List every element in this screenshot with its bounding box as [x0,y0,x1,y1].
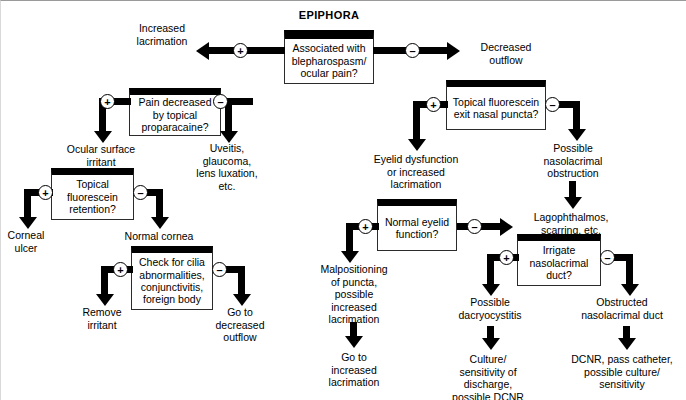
connector-retention-minus-v [156,189,163,219]
label-eyelid-dysfunction: Eyelid dysfunction or increased lacrimat… [356,153,476,191]
arrowhead-dacryocystitis [482,338,500,350]
label-malpositioning: Malpositioning of puncta, possible incre… [314,263,394,326]
sign-eyelid-plus: + [358,219,373,234]
box-root-question: Associated with blepharospasm/ ocular pa… [284,30,374,84]
label-decreased-outflow: Decreased outflow [463,41,549,66]
sign-irrigate-minus: – [600,250,615,265]
label-possible-nasolacrimal-obstruction: Possible nasolacrimal obstruction [528,142,618,180]
sign-text: – [137,186,143,198]
sign-retention-plus: + [38,185,53,200]
sign-root-plus: + [233,43,248,58]
sign-text: + [104,95,110,107]
label-go-to-increased-lacrimation: Go to increased lacrimation [314,351,394,389]
label-lagophthalmos: Lagophthalmos, scarring, etc. [511,211,631,236]
label-uveitis: Uveitis, glaucoma, lens luxation, etc. [187,142,267,192]
arrowhead-eyelid-plus [341,251,359,263]
box-fluorescein-retention: Topical fluorescein retention? [51,168,134,220]
sign-text: – [217,95,223,107]
sign-text: – [549,98,555,110]
sign-text: – [604,251,610,263]
connector-irrigate-minus-v [626,254,633,286]
sign-text: – [471,220,477,232]
sign-exit-plus: + [426,97,441,112]
label-go-to-decreased-outflow: Go to decreased outflow [203,306,277,344]
arrowhead-irrigate-minus [621,284,639,296]
arrowhead-exit-plus [408,139,426,151]
box-pain-proparacaine: Pain decreased by topical proparacaine? [129,88,221,136]
sign-text: – [216,263,222,275]
connector-exit-plus-v [413,101,420,141]
connector-eyelid-plus-v [346,223,353,253]
connector-retention-plus-v [24,189,31,219]
sign-text: + [362,220,368,232]
sign-retention-minus: – [133,185,148,200]
arrowhead-malpositioning [345,336,363,348]
arrowhead-root-minus [447,42,460,60]
sign-text: + [237,44,243,56]
sign-text: + [42,186,48,198]
arrowhead-retention-minus [151,217,169,229]
flowchart-canvas: EPIPHORA Associated with blepharospasm/ … [0,0,686,400]
connector-irrigate-plus-v [487,254,494,286]
label-increased-lacrimation: Increased lacrimation [119,22,205,47]
arrowhead-cilia-plus [96,294,114,306]
box-cilia-check: Check for cilia abnormalities, conjuncti… [131,246,213,310]
sign-exit-minus: – [545,97,560,112]
arrowhead-retention-plus [19,217,37,229]
arrowhead-irrigate-plus [482,284,500,296]
diagram-title: EPIPHORA [284,9,374,22]
connector-cilia-plus-v [101,266,108,296]
label-corneal-ulcer: Corneal ulcer [1,229,51,254]
sign-irrigate-plus: + [499,250,514,265]
arrowhead-pain-plus [94,131,112,143]
sign-text: + [503,251,509,263]
sign-text: – [409,44,415,56]
label-ocular-surface-irritant: Ocular surface irritant [56,143,146,168]
label-culture-sensitivity: Culture/ sensitivity of discharge, possi… [442,353,534,400]
arrowhead-obstruction [564,197,582,209]
label-dcnr: DCNR, pass catheter, possible culture/ s… [557,353,686,391]
label-normal-cornea: Normal cornea [114,230,204,243]
sign-eyelid-minus: – [467,219,482,234]
arrowhead-eyelid-minus [500,218,513,236]
label-possible-dacryocystitis: Possible dacryocystitis [445,296,535,321]
sign-text: + [430,98,436,110]
arrowhead-exit-minus [568,129,586,141]
label-remove-irritant: Remove irritant [71,306,133,331]
box-irrigate-duct: Irrigate nasolacrimal duct? [517,234,601,286]
sign-cilia-minus: – [212,262,227,277]
sign-pain-minus: – [213,94,228,109]
sign-cilia-plus: + [113,262,128,277]
connector-exit-minus-v [573,101,580,131]
box-fluorescein-exit: Topical fluorescein exit nasal puncta? [446,80,546,130]
connector-cilia-minus-v [238,266,245,296]
sign-text: + [117,263,123,275]
sign-root-minus: – [405,43,420,58]
box-eyelid-function: Normal eyelid function? [377,199,457,251]
arrowhead-cilia-minus [233,294,251,306]
sign-pain-plus: + [100,94,115,109]
arrowhead-obstructed [618,338,636,350]
label-obstructed-duct: Obstructed nasolacrimal duct [566,296,678,321]
